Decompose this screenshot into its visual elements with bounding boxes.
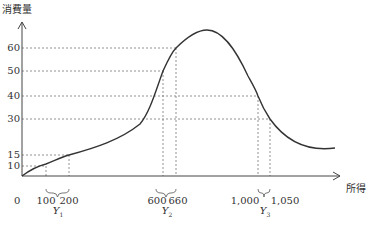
annotation-y1: Y1 [53, 205, 63, 218]
y-tick-15: 15 [2, 150, 20, 160]
x-axis-title: 所得 [346, 180, 366, 195]
x-tick-1000: 1,000 [231, 196, 260, 206]
y-tick-10: 10 [2, 161, 20, 171]
x-tick-1050: 1,050 [271, 196, 300, 206]
reference-lines [22, 48, 270, 176]
y-axis-title: 消費量 [2, 1, 32, 16]
origin-label: 0 [14, 196, 20, 206]
consumption-curve [22, 30, 335, 176]
annotation-y3: Y3 [260, 205, 270, 218]
y-tick-50: 50 [2, 66, 20, 76]
annotation-y2: Y2 [162, 205, 172, 218]
y-tick-60: 60 [2, 43, 20, 53]
y-tick-40: 40 [2, 91, 20, 101]
y-tick-30: 30 [2, 114, 20, 124]
